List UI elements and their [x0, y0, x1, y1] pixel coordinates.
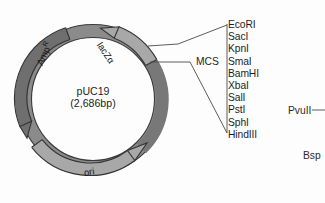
- enzyme-item: SalI: [228, 92, 259, 104]
- enzyme-item: SphI: [228, 117, 259, 129]
- plasmid-center-label: pUC19 (2,686bp): [62, 85, 124, 110]
- enzyme-item: PstI: [228, 104, 259, 116]
- mcs-label: MCS: [196, 56, 219, 67]
- enzyme-item: SmaI: [228, 56, 259, 68]
- mcs-leader-line-upper: [148, 25, 227, 46]
- enzyme-item: EcoRI: [228, 19, 259, 31]
- enzyme-item: HindIII: [228, 129, 259, 141]
- plasmid-name-text: pUC19: [62, 85, 124, 97]
- site-label-pvuii: PvuII: [288, 105, 311, 116]
- enzyme-item: SacI: [228, 31, 259, 43]
- plasmid-size-text: (2,686bp): [62, 97, 124, 109]
- enzyme-item: KpnI: [228, 43, 259, 55]
- enzyme-item: XbaI: [228, 80, 259, 92]
- plasmid-map-figure: [0, 0, 325, 203]
- mcs-enzyme-list: EcoRI SacI KpnI SmaI BamHI XbaI SalI Pst…: [228, 19, 259, 141]
- feature-label-ori: ori: [83, 165, 95, 177]
- site-label-bsp: Bsp: [303, 150, 321, 161]
- plasmid-segment-plain-right: [142, 63, 163, 149]
- enzyme-item: BamHI: [228, 68, 259, 80]
